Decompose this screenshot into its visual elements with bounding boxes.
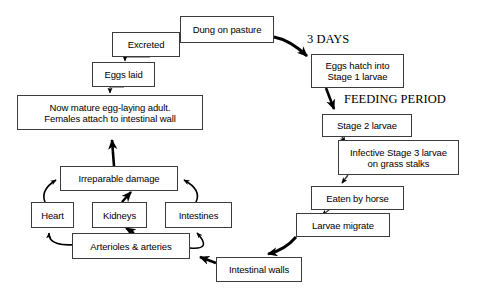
node-eggs-laid[interactable]: Eggs laid: [92, 62, 155, 87]
edge-heart-to-irreparable: [44, 180, 56, 202]
node-infective-stage-3-larvae[interactable]: Infective Stage 3 larvae on grass stalks: [338, 140, 459, 175]
label-three-days: 3 DAYS: [307, 33, 349, 46]
edge-larvae-migrate-to-intestinal-walls: [268, 237, 296, 254]
node-dung-on-pasture[interactable]: Dung on pasture: [180, 16, 274, 43]
edge-dung-to-eggs-hatch: [274, 37, 307, 56]
edge-irreparable-to-mature-adult: [112, 140, 114, 166]
node-arterioles-and-arteries[interactable]: Arterioles & arteries: [72, 233, 190, 259]
label-feeding-period: FEEDING PERIOD: [344, 93, 446, 106]
node-larvae-migrate[interactable]: Larvae migrate: [296, 213, 390, 237]
edge-eggs-hatch-to-stage2: [326, 88, 334, 109]
edge-intestinal-walls-to-arterioles: [200, 257, 216, 263]
node-heart[interactable]: Heart: [31, 202, 74, 228]
node-intestines[interactable]: Intestines: [165, 202, 232, 228]
node-stage-2-larvae[interactable]: Stage 2 larvae: [322, 114, 412, 137]
edge-eggs-laid-to-mature-adult: [110, 87, 124, 93]
edge-intestines-to-irreparable: [184, 180, 198, 202]
node-irreparable-damage[interactable]: Irreparable damage: [60, 166, 178, 191]
edge-kidneys-to-irreparable: [122, 192, 131, 202]
node-eaten-by-horse[interactable]: Eaten by horse: [311, 186, 404, 210]
node-eggs-hatch-stage-1-larvae[interactable]: Eggs hatch into Stage 1 larvae: [311, 54, 404, 88]
node-intestinal-walls[interactable]: Intestinal walls: [216, 257, 302, 282]
life-cycle-diagram: Dung on pasture Excreted Eggs laid Now m…: [0, 0, 481, 305]
edge-arterioles-to-intestines: [190, 233, 204, 248]
node-mature-adult[interactable]: Now mature egg-laying adult. Females att…: [17, 95, 203, 130]
node-kidneys[interactable]: Kidneys: [92, 202, 147, 228]
node-excreted[interactable]: Excreted: [112, 32, 180, 57]
edge-excreted-to-eggs-laid: [125, 57, 150, 61]
edge-infective-to-eaten: [342, 175, 348, 183]
